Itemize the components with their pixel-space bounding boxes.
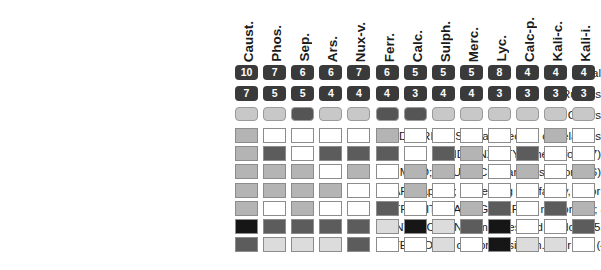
table-row[interactable]: MIND; ANXIETY; others, for (27) <box>0 145 601 163</box>
grade-cell[interactable] <box>319 183 342 198</box>
remedy-header-lyc[interactable]: Lyc. <box>488 0 515 64</box>
grade-cell[interactable] <box>432 183 455 198</box>
grade-cell[interactable] <box>319 237 342 252</box>
grade-cell[interactable] <box>263 201 286 216</box>
grade-cell[interactable] <box>319 146 342 161</box>
color-swatch[interactable] <box>291 107 314 121</box>
grade-cell[interactable] <box>460 128 483 143</box>
table-row[interactable]: MIND; DREAMS; dead; people, of; relative… <box>0 127 601 145</box>
color-swatch[interactable] <box>432 107 455 121</box>
color-swatch[interactable] <box>319 107 342 121</box>
grade-cell[interactable] <box>544 237 567 252</box>
color-swatch[interactable] <box>460 107 483 121</box>
grade-cell[interactable] <box>432 201 455 216</box>
grade-cell[interactable] <box>516 128 539 143</box>
remedy-header-calc-p[interactable]: Calc-p. <box>516 0 543 64</box>
grade-cell[interactable] <box>347 237 370 252</box>
remedy-header-ars[interactable]: Ars. <box>319 0 346 64</box>
remedy-header-sulph[interactable]: Sulph. <box>432 0 459 64</box>
grade-cell[interactable] <box>376 237 399 252</box>
grade-cell[interactable] <box>432 164 455 179</box>
grade-cell[interactable] <box>404 128 427 143</box>
color-swatch[interactable] <box>235 107 258 121</box>
grade-cell[interactable] <box>488 183 511 198</box>
grade-cell[interactable] <box>488 128 511 143</box>
grade-cell[interactable] <box>347 201 370 216</box>
grade-cell[interactable] <box>263 219 286 234</box>
grade-cell[interactable] <box>319 219 342 234</box>
grade-cell[interactable] <box>572 237 595 252</box>
grade-cell[interactable] <box>488 201 511 216</box>
color-swatch[interactable] <box>263 107 286 121</box>
grade-cell[interactable] <box>319 164 342 179</box>
remedy-header-ferr[interactable]: Ferr. <box>376 0 403 64</box>
table-row[interactable]: EXTREMITY PAIN; GENERAL; motion, on; ame… <box>0 200 601 218</box>
grade-cell[interactable] <box>404 183 427 198</box>
grade-cell[interactable] <box>235 128 258 143</box>
grade-cell[interactable] <box>235 201 258 216</box>
color-swatch[interactable] <box>572 107 595 121</box>
table-row[interactable]: CONTRACTION of muscles and tendons (52) <box>0 218 601 236</box>
grade-cell[interactable] <box>404 164 427 179</box>
grade-cell[interactable] <box>291 201 314 216</box>
grade-cell[interactable] <box>460 201 483 216</box>
grade-cell[interactable] <box>376 201 399 216</box>
grade-cell[interactable] <box>544 128 567 143</box>
grade-cell[interactable] <box>347 219 370 234</box>
grade-cell[interactable] <box>432 128 455 143</box>
grade-cell[interactable] <box>460 219 483 234</box>
grade-cell[interactable] <box>572 128 595 143</box>
grade-cell[interactable] <box>347 164 370 179</box>
grade-cell[interactable] <box>404 201 427 216</box>
grade-cell[interactable] <box>544 201 567 216</box>
grade-cell[interactable] <box>488 146 511 161</box>
grade-cell[interactable] <box>404 146 427 161</box>
remedy-header-nux-v[interactable]: Nux-v. <box>347 0 374 64</box>
grade-cell[interactable] <box>376 164 399 179</box>
grade-cell[interactable] <box>235 183 258 198</box>
remedy-header-kali-i[interactable]: Kali-i. <box>572 0 599 64</box>
grade-cell[interactable] <box>235 219 258 234</box>
table-row[interactable]: FEAR; happen; something will; family, to… <box>0 182 601 200</box>
color-swatch[interactable] <box>516 107 539 121</box>
grade-cell[interactable] <box>347 146 370 161</box>
grade-cell[interactable] <box>319 128 342 143</box>
grade-cell[interactable] <box>544 183 567 198</box>
grade-cell[interactable] <box>572 164 595 179</box>
grade-cell[interactable] <box>263 146 286 161</box>
table-row[interactable]: MIND; INJUSTICE, cannot support (16) <box>0 163 601 181</box>
grade-cell[interactable] <box>235 146 258 161</box>
grade-cell[interactable] <box>291 237 314 252</box>
grade-cell[interactable] <box>572 201 595 216</box>
grade-cell[interactable] <box>376 183 399 198</box>
grade-cell[interactable] <box>291 219 314 234</box>
grade-cell[interactable] <box>544 219 567 234</box>
table-row[interactable]: AFTERNOON, one pm. - six pm.; four pm. (… <box>0 236 601 254</box>
grade-cell[interactable] <box>516 201 539 216</box>
grade-cell[interactable] <box>460 237 483 252</box>
grade-cell[interactable] <box>572 219 595 234</box>
grade-cell[interactable] <box>516 164 539 179</box>
grade-cell[interactable] <box>376 219 399 234</box>
grade-cell[interactable] <box>319 201 342 216</box>
grade-cell[interactable] <box>544 164 567 179</box>
color-swatch[interactable] <box>404 107 427 121</box>
grade-cell[interactable] <box>460 164 483 179</box>
grade-cell[interactable] <box>544 146 567 161</box>
grade-cell[interactable] <box>460 146 483 161</box>
grade-cell[interactable] <box>516 183 539 198</box>
grade-cell[interactable] <box>488 219 511 234</box>
remedy-header-caust[interactable]: Caust. <box>235 0 262 64</box>
grade-cell[interactable] <box>235 237 258 252</box>
remedy-header-sep[interactable]: Sep. <box>291 0 318 64</box>
grade-cell[interactable] <box>263 128 286 143</box>
grade-cell[interactable] <box>404 237 427 252</box>
grade-cell[interactable] <box>488 237 511 252</box>
grade-cell[interactable] <box>376 146 399 161</box>
grade-cell[interactable] <box>460 183 483 198</box>
grade-cell[interactable] <box>432 219 455 234</box>
grade-cell[interactable] <box>404 219 427 234</box>
color-swatch[interactable] <box>376 107 399 121</box>
color-swatch[interactable] <box>488 107 511 121</box>
grade-cell[interactable] <box>488 164 511 179</box>
